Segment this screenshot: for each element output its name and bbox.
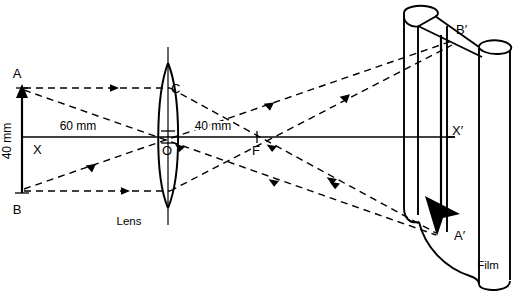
ray-b-centre-arrowhead2-icon (264, 103, 274, 111)
film-group (404, 6, 511, 290)
label-axis-left: X (33, 142, 42, 157)
film-left-roll-bottom (404, 208, 419, 222)
label-object-bottom: B (13, 202, 22, 217)
lens-left-surface (158, 63, 168, 208)
film-left-roll-top (404, 6, 438, 27)
ray-lower-arrowhead-a-icon (269, 179, 279, 187)
lens-ray-diagram: A B X X′ O C F B′ A′ Lens Film 60 mm 40 … (0, 0, 521, 292)
label-image-bottom: A′ (454, 228, 466, 243)
dim-focal-length: 40 mm (195, 119, 232, 133)
label-group: A B X X′ O C F B′ A′ Lens Film 60 mm 40 … (0, 22, 499, 271)
ray-b-centre-arrowhead-icon (86, 164, 96, 172)
label-lens-top-point: C (171, 81, 180, 96)
label-film-caption: Film (477, 259, 499, 271)
dim-object-height: 40 mm (0, 123, 14, 160)
rays-from-object-bottom (24, 41, 452, 195)
ray-lower-arrowhead-b-icon (330, 182, 340, 190)
dim-object-distance: 60 mm (60, 119, 97, 133)
label-object-top: A (13, 66, 22, 81)
film-right-roll-top (479, 40, 511, 54)
ray-a-parallel-arrowhead-icon (110, 84, 119, 92)
film-sheet-bottom-edge (419, 222, 479, 284)
ray-a-through-centre (24, 90, 436, 235)
label-lens-caption: Lens (117, 215, 142, 227)
ray-b-parallel-arrowhead-icon (121, 187, 130, 195)
ray-b-refracted-through-focus (170, 45, 452, 191)
label-axis-right: X′ (452, 123, 464, 138)
ray-a-centre-arrowhead-icon (175, 144, 185, 152)
label-focal-point: F (252, 143, 260, 158)
optics-diagram-canvas: A B X X′ O C F B′ A′ Lens Film 60 mm 40 … (0, 0, 521, 292)
label-image-top: B′ (456, 22, 468, 37)
label-lens-centre: O (162, 143, 172, 158)
ray-a-refracted-through-focus (170, 88, 436, 233)
film-right-roll-bottom (479, 281, 510, 290)
rays-from-object-top (24, 84, 436, 235)
